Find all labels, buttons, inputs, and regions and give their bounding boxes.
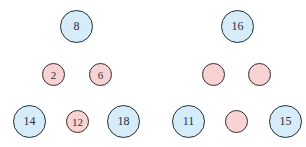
- left-top-node: 8: [60, 10, 93, 43]
- right-bottom-node-1: 11: [172, 105, 205, 138]
- left-bottom-node-1: 14: [13, 105, 46, 138]
- right-middle-node-2: [248, 63, 271, 86]
- right-middle-node-1: [202, 63, 225, 86]
- left-bottom-node-2: 12: [66, 110, 89, 133]
- left-middle-node-1: 2: [42, 63, 65, 86]
- right-bottom-node-3: 15: [269, 105, 302, 138]
- right-bottom-node-2: [225, 110, 248, 133]
- left-bottom-node-3: 18: [107, 105, 140, 138]
- left-middle-node-2: 6: [89, 63, 112, 86]
- right-top-node: 16: [221, 10, 254, 43]
